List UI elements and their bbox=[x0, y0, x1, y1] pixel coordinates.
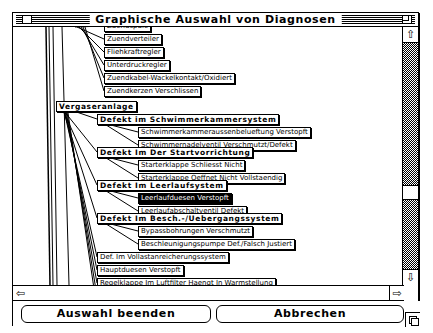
vertical-scroll-track[interactable] bbox=[403, 42, 418, 270]
scroll-right-arrow-icon[interactable]: ⇨ bbox=[389, 286, 404, 301]
resize-grow-box-icon[interactable] bbox=[405, 312, 420, 327]
diagnosis-tree-canvas: ZuendspuleZuendverteilerFliehkraftregler… bbox=[13, 27, 404, 285]
tree-node[interactable]: Beschleunigungspumpe Def./Falsch Justier… bbox=[138, 239, 295, 250]
cancel-button[interactable]: Abbrechen bbox=[216, 305, 404, 323]
tree-node[interactable]: Vergaseranlage bbox=[56, 101, 137, 112]
zoom-box-icon[interactable] bbox=[402, 15, 412, 24]
tree-node[interactable]: Zuendverteiler bbox=[104, 34, 162, 45]
tree-node[interactable]: Starterklappe Schliesst Nicht bbox=[138, 160, 245, 171]
close-box-icon[interactable] bbox=[22, 15, 32, 24]
tree-node[interactable]: Regelklappe Im Luftfilter Haengt In Warm… bbox=[97, 278, 276, 285]
tree-node[interactable]: Hauptduesen Verstopft bbox=[97, 265, 184, 276]
diagnosis-window: Graphische Auswahl von Diagnosen Zuendsp… bbox=[12, 12, 419, 326]
finish-selection-button[interactable]: Auswahl beenden bbox=[21, 305, 211, 323]
tree-node[interactable]: Zuendspule bbox=[104, 27, 151, 32]
tree-node[interactable]: Zuendkerzen Verschlissen bbox=[104, 86, 201, 97]
tree-node[interactable]: Unterdruckregler bbox=[104, 60, 170, 71]
tree-node[interactable]: Defekt Im Besch.-/Uebergangssystem bbox=[97, 213, 282, 224]
title-bar[interactable]: Graphische Auswahl von Diagnosen bbox=[13, 13, 418, 27]
tree-node[interactable]: Defekt Im Leerlaufsystem bbox=[97, 180, 227, 191]
scroll-down-arrow-icon[interactable]: ⇩ bbox=[403, 270, 418, 285]
vertical-scrollbar[interactable]: ⇧ ⇩ bbox=[402, 27, 418, 285]
tree-node[interactable]: Bypassbohrungen Verschmutzt bbox=[138, 226, 253, 237]
horizontal-scrollbar[interactable]: ⇦ ⇨ bbox=[13, 285, 404, 301]
window-title: Graphische Auswahl von Diagnosen bbox=[89, 13, 341, 26]
vertical-scroll-thumb[interactable] bbox=[403, 185, 418, 200]
tree-node[interactable]: Def. Im Vollastanreicherungssystem bbox=[97, 252, 229, 263]
dialog-footer: Auswahl beenden Abbrechen bbox=[13, 301, 420, 327]
tree-node[interactable]: Defekt im Schwimmerkammersystem bbox=[97, 114, 279, 125]
tree-node[interactable]: Fliehkraftregler bbox=[104, 47, 164, 58]
scroll-up-arrow-icon[interactable]: ⇧ bbox=[403, 27, 418, 42]
tree-node[interactable]: Defekt Im Der Startvorrichtung bbox=[97, 147, 253, 158]
tree-node[interactable]: Zuendkabel-Wackelkontakt/Oxidiert bbox=[104, 73, 235, 84]
tree-node[interactable]: Schwimmerkammeraussenbelueftung Verstopf… bbox=[138, 127, 311, 138]
scroll-left-arrow-icon[interactable]: ⇦ bbox=[13, 286, 28, 301]
tree-node[interactable]: Leerlaufduesen Verstopft bbox=[138, 193, 232, 204]
